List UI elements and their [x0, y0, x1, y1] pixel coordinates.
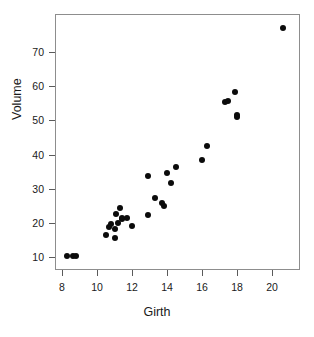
y-axis-tick-label: 40 — [32, 150, 44, 161]
x-axis-tick-mark — [237, 270, 238, 276]
x-axis-tick-label: 16 — [196, 282, 208, 293]
plot-frame — [55, 14, 300, 270]
x-axis-tick-label: 10 — [91, 282, 103, 293]
x-axis-tick-mark — [97, 270, 98, 276]
y-axis-tick-mark — [49, 86, 55, 87]
y-axis-tick-label-group: 10203040506070 — [0, 0, 44, 337]
y-axis-tick-mark — [49, 223, 55, 224]
y-axis-tick-mark — [49, 52, 55, 53]
x-axis-tick-label: 20 — [266, 282, 278, 293]
y-axis-tick-label: 50 — [32, 115, 44, 126]
y-axis-tick-label: 60 — [32, 81, 44, 92]
x-axis-tick-label: 12 — [126, 282, 138, 293]
y-axis-tick-label: 70 — [32, 47, 44, 58]
y-axis-tick-mark — [49, 189, 55, 190]
y-axis-tick-label: 30 — [32, 184, 44, 195]
x-axis-tick-mark — [167, 270, 168, 276]
x-axis-tick-label: 8 — [59, 282, 65, 293]
y-axis-tick-label: 20 — [32, 218, 44, 229]
x-axis-tick-label: 14 — [161, 282, 173, 293]
x-axis-tick-mark — [132, 270, 133, 276]
y-axis-tick-mark — [49, 120, 55, 121]
y-axis-tick-mark — [49, 257, 55, 258]
x-axis-tick-mark — [202, 270, 203, 276]
y-axis-tick-mark — [49, 155, 55, 156]
y-axis-tick-label: 10 — [32, 252, 44, 263]
x-axis-title: Girth — [0, 305, 314, 319]
x-axis-tick-mark — [62, 270, 63, 276]
scatter-plot-figure: Volume 10203040506070 Girth 810121416182… — [0, 0, 314, 337]
x-axis-tick-label: 18 — [231, 282, 243, 293]
x-axis-tick-mark — [272, 270, 273, 276]
